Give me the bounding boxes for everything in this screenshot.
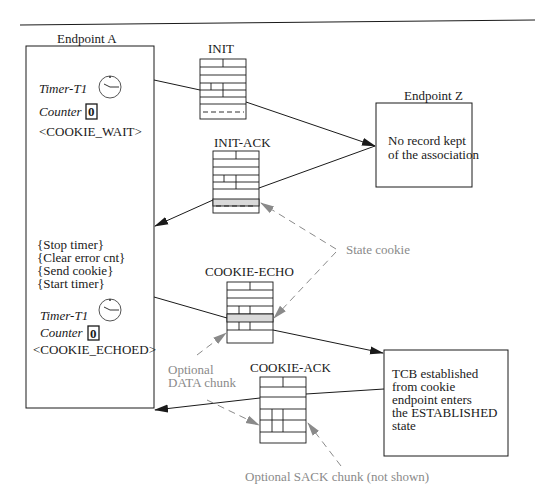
- endpoint-z-note-line2: of the association: [388, 147, 479, 162]
- clock-icon: [99, 76, 121, 98]
- clock-icon: [99, 299, 121, 321]
- endpoint-a-title: Endpoint A: [57, 31, 117, 46]
- cookie-echo-label: COOKIE-ECHO: [205, 264, 294, 279]
- init-packet: [200, 59, 246, 119]
- counter-value-2: 0: [90, 326, 97, 341]
- top-rule: [20, 20, 535, 25]
- counter-value-1: 0: [88, 104, 95, 119]
- counter-label-1: Counter: [39, 104, 83, 119]
- init-ack-label: INIT-ACK: [214, 135, 271, 150]
- cookie-ack-packet: [260, 377, 306, 443]
- state-cookie-label: State cookie: [346, 242, 410, 257]
- init-ack-arrow: [155, 146, 375, 226]
- state-cookie-echoed: <COOKIE_ECHOED>: [33, 342, 156, 357]
- cookie-ack-label: COOKIE-ACK: [250, 360, 331, 375]
- action-start-timer: {Start timer}: [37, 276, 105, 291]
- established-line5: state: [392, 418, 416, 433]
- state-cookie-pointers: [261, 203, 336, 318]
- cookie-echo-packet: [227, 282, 273, 343]
- optional-data-label-line2: DATA chunk: [168, 375, 236, 390]
- cookie-ack-arrow: [155, 389, 384, 410]
- cookie-echo-arrow: [154, 297, 383, 353]
- init-label: INIT: [208, 41, 234, 56]
- optional-sack-label: Optional SACK chunk (not shown): [245, 469, 429, 484]
- endpoint-z-note-line1: No record kept: [388, 133, 466, 148]
- state-cookie-wait: <COOKIE_WAIT>: [39, 124, 142, 139]
- endpoint-z-title: Endpoint Z: [404, 88, 463, 103]
- timer-label-1: Timer-T1: [39, 81, 87, 96]
- timer-label-2: Timer-T1: [40, 308, 88, 323]
- init-ack-packet: [213, 151, 259, 213]
- counter-label-2: Counter: [40, 325, 84, 340]
- optional-sack-pointer: [308, 423, 341, 466]
- association-setup-diagram: Endpoint A Timer-T1 Counter 0 <COOKIE_WA…: [0, 0, 535, 503]
